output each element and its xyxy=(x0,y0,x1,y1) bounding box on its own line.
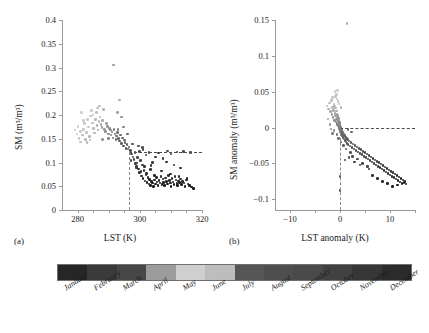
data-point xyxy=(153,174,156,177)
data-point xyxy=(356,158,359,161)
data-point xyxy=(330,99,333,102)
data-point xyxy=(327,118,330,121)
data-point xyxy=(118,99,121,102)
data-point xyxy=(337,117,340,120)
data-point xyxy=(76,133,79,136)
reference-line-horizontal xyxy=(340,128,415,129)
data-point xyxy=(361,162,364,165)
panel-b-y-axis-label: SM anomaly (m³/m³) xyxy=(229,99,239,180)
x-tick xyxy=(93,210,94,213)
x-tick-label: 320 xyxy=(186,215,218,224)
data-point xyxy=(179,167,182,170)
data-point xyxy=(83,122,86,125)
y-tick-label: −0.05 xyxy=(215,159,269,168)
panel-b-y-axis xyxy=(275,20,276,211)
data-point xyxy=(145,172,148,175)
data-point xyxy=(87,126,90,129)
y-tick-label: 0.15 xyxy=(0,135,56,144)
data-point xyxy=(381,180,384,183)
y-tick-label: 0.1 xyxy=(0,159,56,168)
x-tick xyxy=(290,210,291,213)
data-point xyxy=(173,183,176,186)
data-point xyxy=(186,177,189,180)
data-point xyxy=(344,159,347,162)
data-point xyxy=(96,124,99,127)
data-point xyxy=(139,159,142,162)
data-point xyxy=(117,128,120,131)
data-point xyxy=(350,131,353,134)
y-tick xyxy=(59,210,62,211)
data-point xyxy=(329,123,332,126)
data-point xyxy=(174,175,177,178)
x-tick xyxy=(171,210,172,213)
y-tick xyxy=(59,186,62,187)
data-point xyxy=(89,139,92,142)
data-point xyxy=(82,128,85,131)
data-point xyxy=(335,93,338,96)
data-point xyxy=(107,137,110,140)
y-tick-label: 0.35 xyxy=(0,40,56,49)
data-point xyxy=(342,144,345,147)
panel-b-x-axis xyxy=(275,210,416,211)
y-tick xyxy=(59,68,62,69)
data-point xyxy=(184,185,187,188)
data-point xyxy=(347,128,350,131)
data-point xyxy=(111,131,114,134)
y-tick-label: 0.3 xyxy=(0,64,56,73)
data-point xyxy=(88,135,91,138)
data-point xyxy=(81,134,84,137)
data-point xyxy=(346,22,349,25)
data-point xyxy=(122,126,125,129)
data-point xyxy=(348,156,351,159)
data-point xyxy=(110,134,113,137)
y-tick xyxy=(272,128,275,129)
x-tick xyxy=(340,210,341,213)
panel-b-plot-area xyxy=(275,20,415,210)
panel-b: SM anomaly (m³/m³) LST anomaly (K) (b) −… xyxy=(215,0,429,255)
data-point xyxy=(119,134,122,137)
y-tick-label: 0.15 xyxy=(215,16,269,25)
data-point xyxy=(376,177,379,180)
data-point xyxy=(93,132,96,135)
data-point xyxy=(112,137,115,140)
data-point xyxy=(98,105,101,108)
x-tick xyxy=(365,210,366,213)
data-point xyxy=(335,110,338,113)
y-tick-label: 0.25 xyxy=(0,87,56,96)
panel-a: SM (m³/m³) LST (K) (a) 00.050.10.150.20.… xyxy=(0,0,215,255)
data-point xyxy=(101,138,104,141)
x-tick-label: 300 xyxy=(124,215,156,224)
data-point xyxy=(116,111,119,114)
panel-b-x-axis-label: LST anomaly (K) xyxy=(260,233,410,243)
x-tick xyxy=(415,210,416,213)
data-point xyxy=(165,161,168,164)
data-point xyxy=(169,173,172,176)
data-point xyxy=(131,143,134,146)
x-tick xyxy=(315,210,316,213)
data-point xyxy=(80,111,83,114)
data-point xyxy=(112,64,115,67)
data-point xyxy=(94,118,97,121)
panel-a-plot-area xyxy=(62,20,202,210)
data-point xyxy=(133,158,136,161)
data-point xyxy=(345,148,348,151)
y-tick xyxy=(272,20,275,21)
data-point xyxy=(141,146,144,149)
data-point xyxy=(77,125,80,128)
y-tick xyxy=(59,115,62,116)
reference-line-vertical xyxy=(340,128,341,210)
y-tick-label: 0.05 xyxy=(215,88,269,97)
x-tick-label: 10 xyxy=(374,215,406,224)
y-tick-label: 0.2 xyxy=(0,111,56,120)
data-point xyxy=(336,133,339,136)
x-tick xyxy=(109,210,110,213)
x-tick xyxy=(202,210,203,213)
data-point xyxy=(338,103,341,106)
y-tick-label: 0.1 xyxy=(215,52,269,61)
x-tick-label: −10 xyxy=(274,215,306,224)
data-point xyxy=(183,182,186,185)
y-tick-label: 0 xyxy=(0,206,56,215)
data-point xyxy=(386,182,389,185)
data-point xyxy=(128,146,131,149)
data-point xyxy=(371,174,374,177)
